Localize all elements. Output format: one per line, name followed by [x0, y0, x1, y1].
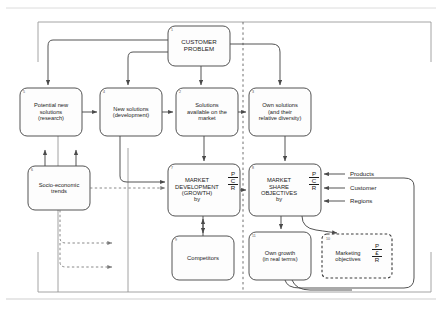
node-10-shape: [322, 234, 392, 278]
edge-8-to-10: [302, 216, 337, 233]
edge-6-to-lower-b: [60, 243, 112, 267]
edge-4-to-7: [120, 136, 165, 182]
node-4-shape: [100, 88, 162, 136]
edge-1-to-3: [230, 44, 280, 85]
node-9-shape: [172, 236, 234, 280]
edge-6-to-lower-a: [60, 210, 112, 243]
node-5-shape: [20, 88, 82, 136]
node-7-shape: [168, 164, 240, 216]
edge-1-to-4: [128, 52, 168, 85]
edge-1-to-5: [48, 40, 168, 85]
node-6-shape: [28, 166, 90, 210]
node-11-shape: [249, 232, 311, 280]
node-3-shape: [249, 88, 311, 136]
node-2-shape: [176, 88, 238, 136]
node-8-shape: [249, 164, 321, 216]
diagram-canvas: 1 CUSTOMER PROBLEM 5 Potential new solut…: [0, 0, 442, 314]
node-shapes: [20, 26, 321, 280]
diagram-svg: [0, 0, 442, 314]
node-1-shape: [168, 26, 230, 66]
edge-11-to-lower: [292, 280, 352, 290]
